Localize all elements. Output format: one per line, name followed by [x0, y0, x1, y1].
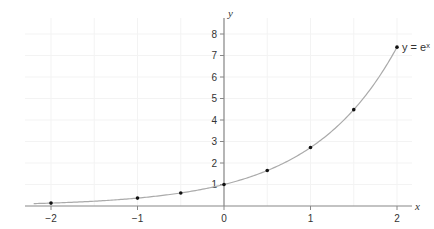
- data-point: [179, 191, 183, 195]
- y-tick-label: 7: [211, 50, 217, 61]
- data-point: [352, 108, 356, 112]
- curve-label: y = eˣ: [402, 41, 430, 53]
- x-tick-label: −1: [132, 213, 144, 224]
- ticks: −2−101212345678: [45, 29, 400, 225]
- data-point: [309, 146, 313, 150]
- data-point: [49, 201, 53, 205]
- y-tick-label: 5: [211, 93, 217, 104]
- data-point: [395, 45, 399, 49]
- x-axis-label: x: [414, 200, 420, 212]
- x-tick-label: 1: [308, 213, 314, 224]
- data-point: [265, 169, 269, 173]
- y-tick-label: 3: [211, 136, 217, 147]
- y-axis-label: y: [227, 7, 233, 19]
- exponential-chart: −2−101212345678 x y y = eˣ: [0, 0, 434, 229]
- y-tick-label: 6: [211, 72, 217, 83]
- data-point: [136, 196, 140, 200]
- y-tick-label: 1: [211, 179, 217, 190]
- y-tick-label: 8: [211, 29, 217, 40]
- x-tick-label: 2: [394, 213, 400, 224]
- data-point: [222, 183, 226, 187]
- x-tick-label: −2: [45, 213, 57, 224]
- y-tick-label: 2: [211, 158, 217, 169]
- grid: [25, 18, 412, 206]
- x-tick-label: 0: [221, 213, 227, 224]
- y-tick-label: 4: [211, 115, 217, 126]
